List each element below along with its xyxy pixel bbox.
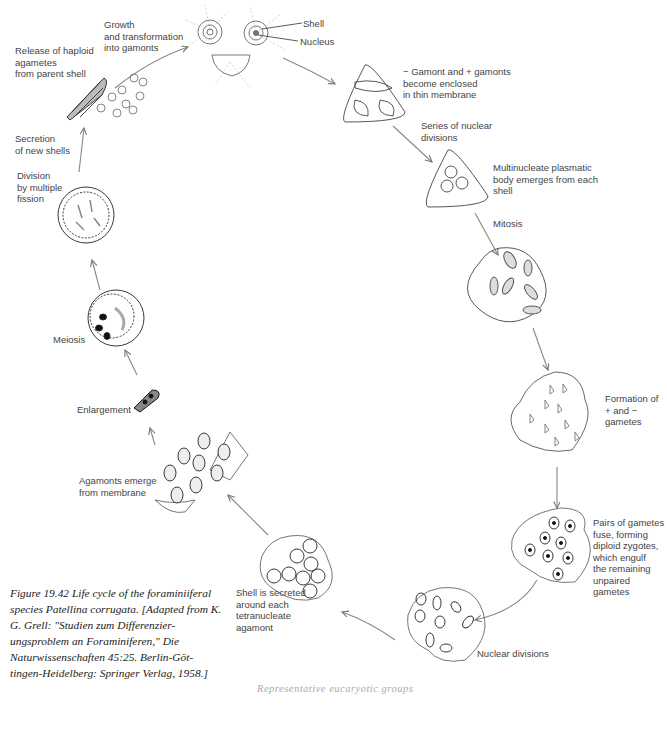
label-nucleus: Nucleus [300, 36, 334, 48]
mitosis-illustration [468, 248, 547, 322]
enlargement-illustration [134, 390, 159, 412]
agametes-release-illustration [67, 74, 147, 120]
zygotes-illustration [511, 508, 590, 583]
label-gamont: − Gamont and + gamonts become enclosed i… [403, 66, 511, 101]
label-shell: Shell [303, 18, 324, 30]
gamont-shells-illustration [185, 5, 302, 88]
gamonts-membrane-illustration [344, 65, 405, 122]
running-footer: Representative eucaryotic groups [257, 682, 413, 696]
label-pairs: Pairs of gametes fuse, forming diploid z… [593, 517, 667, 598]
label-division: Division by multiple fission [17, 170, 62, 205]
multinucleate-body-illustration [426, 150, 488, 207]
life-cycle-diagram: Growth and transformation into gamonts S… [0, 0, 667, 738]
label-meiosis: Meiosis [53, 334, 85, 346]
gametes-formation-illustration [511, 372, 588, 451]
nuclear-divisions-illustration [408, 588, 485, 662]
label-multinucleate: Multinucleate plasmatic body emerges fro… [493, 162, 598, 197]
multiple-fission-illustration [58, 187, 114, 243]
figure-caption: Figure 19.42 Life cycle of the foraminii… [10, 585, 225, 681]
label-series: Series of nuclear divisions [421, 120, 492, 143]
label-growth: Growth and transformation into gamonts [104, 19, 183, 54]
label-shell-secreted: Shell is secreted around each tetranucle… [236, 587, 306, 633]
label-secretion: Secretion of new shells [15, 133, 70, 156]
label-nuclear-divisions: Nuclear divisions [477, 648, 549, 660]
label-enlargement: Enlargement [77, 404, 131, 416]
meiosis-illustration [88, 290, 144, 346]
label-agamonts: Agamonts emerge from membrane [79, 475, 157, 498]
label-release: Release of haploid agametes from parent … [15, 45, 94, 80]
label-formation: Formation of + and − gametes [605, 393, 658, 428]
label-mitosis: Mitosis [493, 218, 523, 230]
